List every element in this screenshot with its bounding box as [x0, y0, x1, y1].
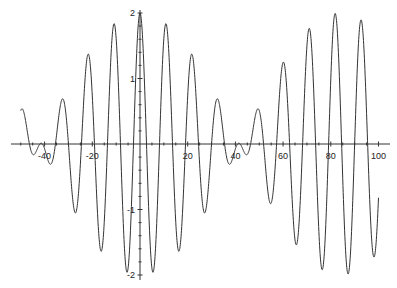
axes — [11, 10, 390, 280]
x-tick-label: -20 — [86, 151, 99, 161]
x-tick-label: 80 — [326, 151, 336, 161]
y-tick-label: 2 — [130, 8, 135, 18]
x-tick-label: 100 — [371, 151, 386, 161]
x-tick-label: 20 — [183, 151, 193, 161]
y-tick-label: 1 — [130, 74, 135, 84]
y-tick-label: -2 — [127, 270, 135, 280]
x-tick-label: -40 — [38, 151, 51, 161]
x-tick-label: 60 — [278, 151, 288, 161]
line-chart: -40-2020406080100-2-112 — [0, 0, 397, 288]
